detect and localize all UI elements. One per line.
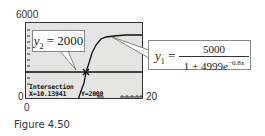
x-min-label: 0 (24, 102, 30, 113)
intersection-x-value: X=10.13941 (29, 91, 66, 98)
y1-den-exponent: −0.8x (228, 59, 244, 67)
y1-numerator: 5000 (179, 43, 249, 57)
y-axis-ticks (27, 30, 30, 84)
figure-caption: Figure 4.50 (14, 119, 70, 130)
y1-lhs: y1 = (155, 48, 175, 66)
x-max-label: 20 (146, 91, 157, 102)
y2-equation-callout: y2 = 2000 (32, 30, 85, 52)
y1-denominator: 1 + 4999e−0.8x (179, 57, 249, 73)
y-min-label: 0 (18, 91, 24, 102)
intersection-y-value: Y=2000 (81, 91, 103, 98)
y1-den-base: 1 + 4999 (184, 60, 223, 72)
y2-value: = 2000 (43, 33, 83, 48)
x-axis-ticks (97, 95, 142, 97)
y1-equation-callout: y1 = 5000 1 + 4999e−0.8x (148, 40, 251, 70)
y1-equals: = (165, 48, 176, 63)
y1-fraction: 5000 1 + 4999e−0.8x (179, 43, 249, 73)
y-max-label: 6000 (16, 9, 38, 20)
